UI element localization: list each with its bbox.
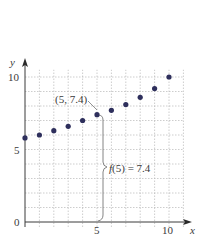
value-label: f(5) = 7.4	[109, 162, 151, 175]
data-point	[80, 118, 85, 123]
data-point	[152, 86, 157, 91]
y-axis-label: y	[9, 56, 15, 68]
point-label: (5, 7.4)	[55, 93, 87, 106]
annotations: (5, 7.4) f(5) = 7.4	[55, 93, 151, 221]
data-point	[138, 95, 143, 100]
data-point	[166, 74, 171, 79]
data-point	[123, 102, 128, 107]
data-point	[94, 112, 99, 117]
value-label-text: (5) = 7.4	[112, 162, 151, 175]
scatter-chart: x y 5 10 0 5 10 (5, 7.4) f(5) = 7.4	[0, 0, 203, 246]
y-tick-0: 0	[14, 216, 20, 228]
x-axis-label: x	[189, 224, 195, 236]
data-point	[51, 128, 56, 133]
axes: x y 5 10 0 5 10	[8, 56, 195, 236]
x-tick-10: 10	[162, 224, 174, 236]
data-point	[37, 132, 42, 137]
point-callout-leader	[88, 101, 97, 110]
y-tick-5: 5	[14, 144, 20, 156]
data-point	[66, 124, 71, 129]
value-bracket	[98, 115, 107, 221]
data-point	[22, 135, 27, 140]
y-tick-10: 10	[8, 71, 20, 83]
grid-lines	[25, 70, 183, 227]
x-tick-5: 5	[94, 224, 100, 236]
data-point	[109, 108, 114, 113]
